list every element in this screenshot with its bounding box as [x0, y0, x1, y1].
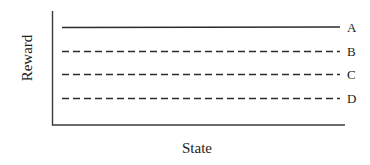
- reward-state-chart: A B C D Reward State: [0, 0, 370, 165]
- series-label-a: A: [347, 21, 356, 34]
- series-line-a: [62, 27, 340, 28]
- x-axis-label: State: [52, 139, 342, 157]
- series-label-b: B: [347, 45, 356, 58]
- y-axis-label: Reward: [18, 3, 36, 113]
- series-label-d: D: [347, 92, 356, 105]
- series-label-c: C: [347, 68, 356, 81]
